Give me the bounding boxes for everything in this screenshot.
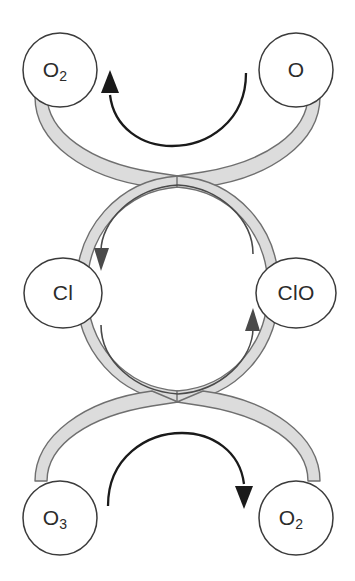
top-arc-path [110, 73, 246, 146]
inner-right-upper-arc [178, 185, 253, 254]
node-o-top-right-label: O [288, 58, 305, 81]
node-o2-top-left[interactable]: O2 [23, 33, 97, 107]
node-clo-middle-right[interactable]: ClO [256, 258, 336, 328]
bottom-arc-path [108, 433, 244, 506]
inner-right-arc-path [178, 328, 253, 394]
ribbon-upper-left [35, 95, 178, 187]
inner-left-lower-arc [101, 325, 178, 394]
inner-left-arrowhead [94, 248, 109, 271]
ozone-cycle-diagram: O2 O Cl ClO [0, 0, 355, 581]
ribbon-lower-right [177, 391, 320, 481]
node-o3-bottom-left[interactable]: O3 [23, 481, 97, 555]
node-o2-bottom-right[interactable]: O2 [259, 481, 333, 555]
cycle-svg-canvas: O2 O Cl ClO [0, 0, 355, 581]
top-arc-arrow [101, 70, 246, 146]
node-group: O2 O Cl ClO [23, 33, 336, 555]
inner-left-arrow [94, 185, 178, 271]
node-cl-middle-left[interactable]: Cl [24, 258, 102, 328]
inner-right-arrowhead [245, 308, 260, 331]
top-arc-arrowhead [101, 70, 119, 93]
node-cl-middle-left-label: Cl [53, 281, 73, 304]
bottom-arc-arrowhead [235, 486, 253, 509]
bottom-arc-arrow [108, 433, 253, 509]
inner-right-arrow [178, 308, 260, 394]
node-clo-middle-right-label: ClO [277, 281, 314, 304]
inner-left-arc-path [101, 185, 178, 251]
node-o-top-right[interactable]: O [259, 33, 333, 107]
